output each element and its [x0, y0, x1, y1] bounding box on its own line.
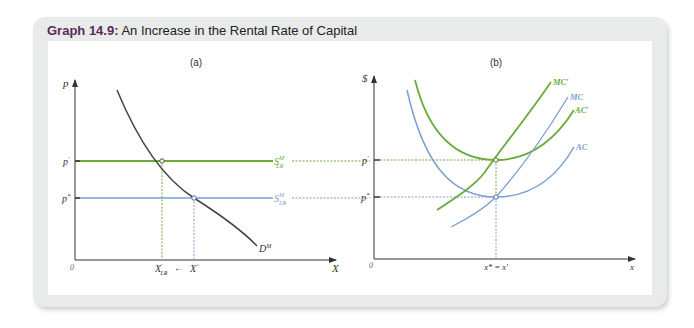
panel-a: (a) p X 0 p′ p* DM SM′LR SMLR X′LR ← X*: [61, 57, 370, 276]
equilibrium-new-b: [494, 158, 498, 162]
ac-curve: [407, 90, 574, 197]
arrow-label: ←: [174, 262, 184, 273]
origin-a: 0: [70, 263, 74, 272]
x-star-label-b: x* = x′: [483, 262, 508, 272]
x-axis-label-a: X: [331, 262, 340, 274]
mc-prime-curve: [437, 82, 551, 210]
demand-curve: [117, 90, 257, 246]
x-axis-label-b: x: [629, 262, 634, 272]
panel-b: (b) $ x 0 p′ p* MC′ MC AC′ AC x* = x′: [360, 57, 635, 272]
equilibrium-old-b: [494, 195, 498, 199]
equilibrium-old-a: [192, 196, 196, 200]
p-star-label-a: p*: [61, 192, 71, 204]
x-new-label: X′LR: [154, 263, 168, 276]
y-axis-label-a: p: [62, 77, 69, 89]
p-prime-label-a: p′: [62, 155, 70, 167]
ac-prime-label: AC′: [574, 105, 589, 115]
supply-old-label: SMLR: [274, 192, 286, 206]
y-axis-label-b: $: [362, 72, 368, 84]
equilibrium-new-a: [160, 159, 164, 163]
p-star-label-b: p*: [360, 191, 370, 203]
supply-new-label: SM′LR: [274, 155, 286, 169]
ac-prime-curve: [415, 80, 574, 160]
x-old-label: X*: [189, 263, 199, 274]
origin-b: 0: [369, 261, 373, 270]
demand-label: DM: [258, 243, 272, 254]
mc-label: MC: [569, 92, 584, 102]
economics-graphs: (a) p X 0 p′ p* DM SM′LR SMLR X′LR ← X*: [0, 0, 694, 328]
panel-a-title: (a): [190, 57, 202, 68]
panel-b-title: (b): [490, 57, 502, 68]
ac-label: AC: [575, 142, 588, 152]
mc-prime-label: MC′: [552, 77, 569, 87]
mc-curve: [451, 97, 568, 227]
p-prime-label-b: p′: [361, 154, 369, 166]
